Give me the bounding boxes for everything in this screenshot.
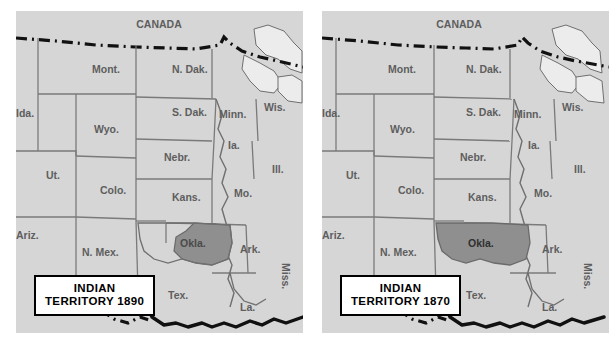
caption-line-2: TERRITORY 1870	[351, 295, 450, 308]
caption-line-1: INDIAN	[351, 282, 450, 295]
state-label-ia: Ia.	[228, 139, 240, 151]
state-label-nebr: Nebr.	[164, 151, 190, 163]
state-label-wyo: Wyo.	[390, 123, 415, 135]
map-panel-1870[interactable]: CANADA Mont. N. Dak. Ida. S. Dak. Minn. …	[322, 11, 609, 333]
state-label-nmex: N. Mex.	[82, 246, 119, 258]
state-label-ida: Ida.	[16, 107, 34, 119]
state-label-ndak: N. Dak.	[172, 63, 208, 75]
map-panel-1890[interactable]: CANADA Mont. N. Dak. Ida. S. Dak. Minn. …	[16, 11, 303, 333]
map-figure: CANADA Mont. N. Dak. Ida. S. Dak. Minn. …	[0, 0, 611, 345]
state-label-miss: Miss.	[582, 263, 594, 289]
state-label-wis: Wis.	[562, 101, 584, 113]
caption-line-2: TERRITORY 1890	[45, 295, 144, 308]
state-label-mont: Mont.	[92, 63, 120, 75]
state-label-ia: Ia.	[528, 139, 540, 151]
state-label-wyo: Wyo.	[94, 123, 119, 135]
state-label-ida: Ida.	[322, 107, 340, 119]
state-label-kans: Kans.	[172, 191, 201, 203]
state-label-ill: Ill.	[574, 163, 586, 175]
state-label-ariz: Ariz.	[16, 229, 39, 241]
state-label-minn: Minn.	[219, 108, 246, 120]
state-label-sdak: S. Dak.	[172, 106, 207, 118]
state-label-sdak: S. Dak.	[466, 106, 501, 118]
state-label-ut: Ut.	[346, 169, 360, 181]
state-label-ariz: Ariz.	[322, 229, 345, 241]
state-label-mo: Mo.	[534, 187, 552, 199]
state-label-mont: Mont.	[388, 63, 416, 75]
state-label-ut: Ut.	[46, 169, 60, 181]
country-label-canada: CANADA	[436, 18, 482, 30]
state-label-la: La.	[240, 301, 255, 313]
state-label-tex: Tex.	[466, 289, 486, 301]
state-label-wis: Wis.	[264, 101, 286, 113]
state-label-kans: Kans.	[468, 191, 497, 203]
state-label-minn: Minn.	[514, 108, 541, 120]
caption-plate-1890[interactable]: INDIAN TERRITORY 1890	[34, 275, 155, 316]
state-label-okla: Okla.	[180, 237, 206, 249]
state-label-ndak: N. Dak.	[466, 63, 502, 75]
state-label-la: La.	[542, 301, 557, 313]
caption-line-1: INDIAN	[45, 282, 144, 295]
state-label-miss: Miss.	[280, 263, 292, 289]
state-label-ark: Ark.	[542, 243, 563, 255]
state-label-colo: Colo.	[100, 184, 126, 196]
state-label-tex: Tex.	[168, 289, 188, 301]
state-label-ill: Ill.	[272, 163, 284, 175]
country-label-canada: CANADA	[136, 18, 182, 30]
state-label-colo: Colo.	[398, 184, 424, 196]
state-label-mo: Mo.	[234, 187, 252, 199]
state-label-ark: Ark.	[240, 243, 261, 255]
state-label-okla: Okla.	[468, 237, 494, 249]
state-label-nebr: Nebr.	[460, 151, 486, 163]
state-label-nmex: N. Mex.	[380, 246, 417, 258]
caption-plate-1870[interactable]: INDIAN TERRITORY 1870	[340, 275, 461, 316]
